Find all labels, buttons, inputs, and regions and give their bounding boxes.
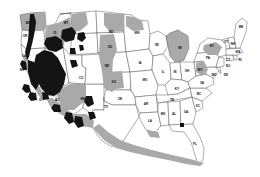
label-mi: MI [178, 46, 182, 50]
label-wa: WA [26, 21, 32, 25]
label-ms: MS [161, 112, 166, 116]
label-nh: NH [231, 42, 236, 46]
black-region-socal-2 [28, 92, 37, 101]
label-al: AL [172, 112, 176, 116]
label-ma: MA [236, 50, 242, 54]
us-choropleth-map: WA OR CA NV ID MT WY UT AZ NM CO ND SD N… [0, 0, 260, 177]
state-me [234, 18, 247, 48]
label-ri: RI [238, 58, 241, 62]
label-me: ME [239, 25, 244, 29]
label-ut: UT [39, 98, 43, 102]
black-region-socal-1 [22, 84, 31, 93]
label-wi: WI [155, 43, 159, 47]
state-ma [226, 48, 243, 55]
label-ar: AR [144, 102, 149, 106]
label-de: DE [224, 73, 228, 77]
label-ga: GA [184, 110, 189, 114]
label-il: IL [162, 70, 165, 74]
label-oh: OH [185, 69, 190, 73]
label-sd: SD [108, 45, 113, 49]
label-fl: FL [193, 142, 197, 146]
label-nd: ND [109, 30, 114, 34]
label-mn: MN [135, 31, 141, 35]
label-az: AZ [55, 98, 59, 102]
label-ca: CA [22, 54, 27, 58]
label-ct: CT [226, 58, 230, 62]
label-sc: SC [196, 104, 201, 108]
black-region-fl-panhandle [180, 123, 184, 127]
label-mt: MT [64, 21, 69, 25]
label-vt: VT [224, 40, 228, 44]
label-md: MD [212, 73, 218, 77]
gray-region-ms-delta [146, 130, 160, 138]
label-mo: MO [143, 78, 149, 82]
label-ks: KS [112, 80, 116, 84]
label-or: OR [23, 34, 28, 38]
label-ok: OK [118, 97, 123, 101]
label-ne: NE [105, 64, 109, 68]
label-nj: NJ [226, 64, 230, 68]
map-svg: WA OR CA NV ID MT WY UT AZ NM CO ND SD N… [0, 0, 260, 177]
label-nm: NM [81, 97, 86, 101]
label-co: CO [79, 76, 84, 80]
black-region-colorado-plateau [70, 48, 76, 54]
label-nc: NC [197, 92, 202, 96]
